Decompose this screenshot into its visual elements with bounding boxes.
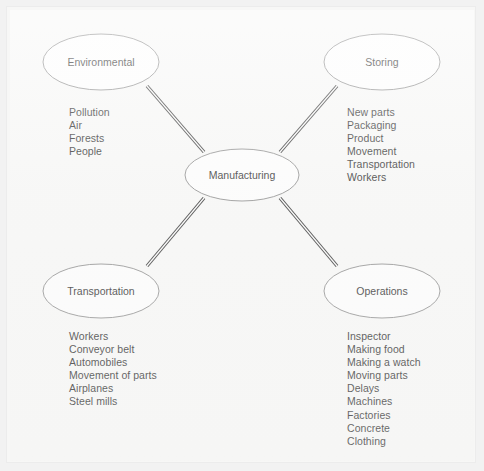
item-list-environmental: Pollution Air Forests People xyxy=(69,106,110,158)
connector-inner-line xyxy=(280,86,337,152)
list-item: Concrete xyxy=(347,422,421,435)
list-item: Making food xyxy=(347,343,421,356)
node-transportation[interactable]: Transportation xyxy=(43,264,159,318)
node-environmental[interactable]: Environmental xyxy=(43,34,159,90)
connector-center-to-storing xyxy=(280,86,337,152)
list-item: Inspector xyxy=(347,330,421,343)
list-item: Automobiles xyxy=(69,356,157,369)
node-label-storing: Storing xyxy=(365,56,398,68)
list-item: Workers xyxy=(69,330,157,343)
list-item: Packaging xyxy=(347,119,415,132)
node-storing[interactable]: Storing xyxy=(324,34,440,90)
node-label-transportation: Transportation xyxy=(67,285,134,297)
list-item: Moving parts xyxy=(347,369,421,382)
node-label-manufacturing: Manufacturing xyxy=(209,169,276,181)
list-item: Factories xyxy=(347,409,421,422)
list-item: Air xyxy=(69,119,110,132)
item-list-transportation: Workers Conveyor belt Automobiles Moveme… xyxy=(69,330,157,409)
connector-inner-line xyxy=(147,198,204,266)
list-item: Clothing xyxy=(347,435,421,448)
connector-inner-line xyxy=(280,198,337,266)
list-item: Airplanes xyxy=(69,382,157,395)
node-label-operations: Operations xyxy=(356,285,407,297)
item-list-operations: Inspector Making food Making a watch Mov… xyxy=(347,330,421,448)
list-item: Product xyxy=(347,132,415,145)
list-item: Movement of parts xyxy=(69,369,157,382)
node-manufacturing[interactable]: Manufacturing xyxy=(185,149,299,201)
concept-map-page: Environmental Storing Transportation Ope… xyxy=(0,0,484,471)
list-item: Pollution xyxy=(69,106,110,119)
list-item: Movement xyxy=(347,145,415,158)
list-item: Making a watch xyxy=(347,356,421,369)
connector-inner-line xyxy=(147,86,204,152)
list-item: Delays xyxy=(347,382,421,395)
list-item: Transportation xyxy=(347,158,415,171)
node-operations[interactable]: Operations xyxy=(324,264,440,318)
item-list-storing: New parts Packaging Product Movement Tra… xyxy=(347,106,415,185)
list-item: Conveyor belt xyxy=(69,343,157,356)
connector-center-to-operations xyxy=(280,198,337,266)
connector-center-to-environmental xyxy=(147,86,204,152)
list-item: Steel mills xyxy=(69,395,157,408)
connector-center-to-transportation xyxy=(147,198,204,266)
list-item: Workers xyxy=(347,171,415,184)
list-item: Machines xyxy=(347,395,421,408)
list-item: Forests xyxy=(69,132,110,145)
list-item: People xyxy=(69,145,110,158)
node-label-environmental: Environmental xyxy=(67,56,134,68)
list-item: New parts xyxy=(347,106,415,119)
